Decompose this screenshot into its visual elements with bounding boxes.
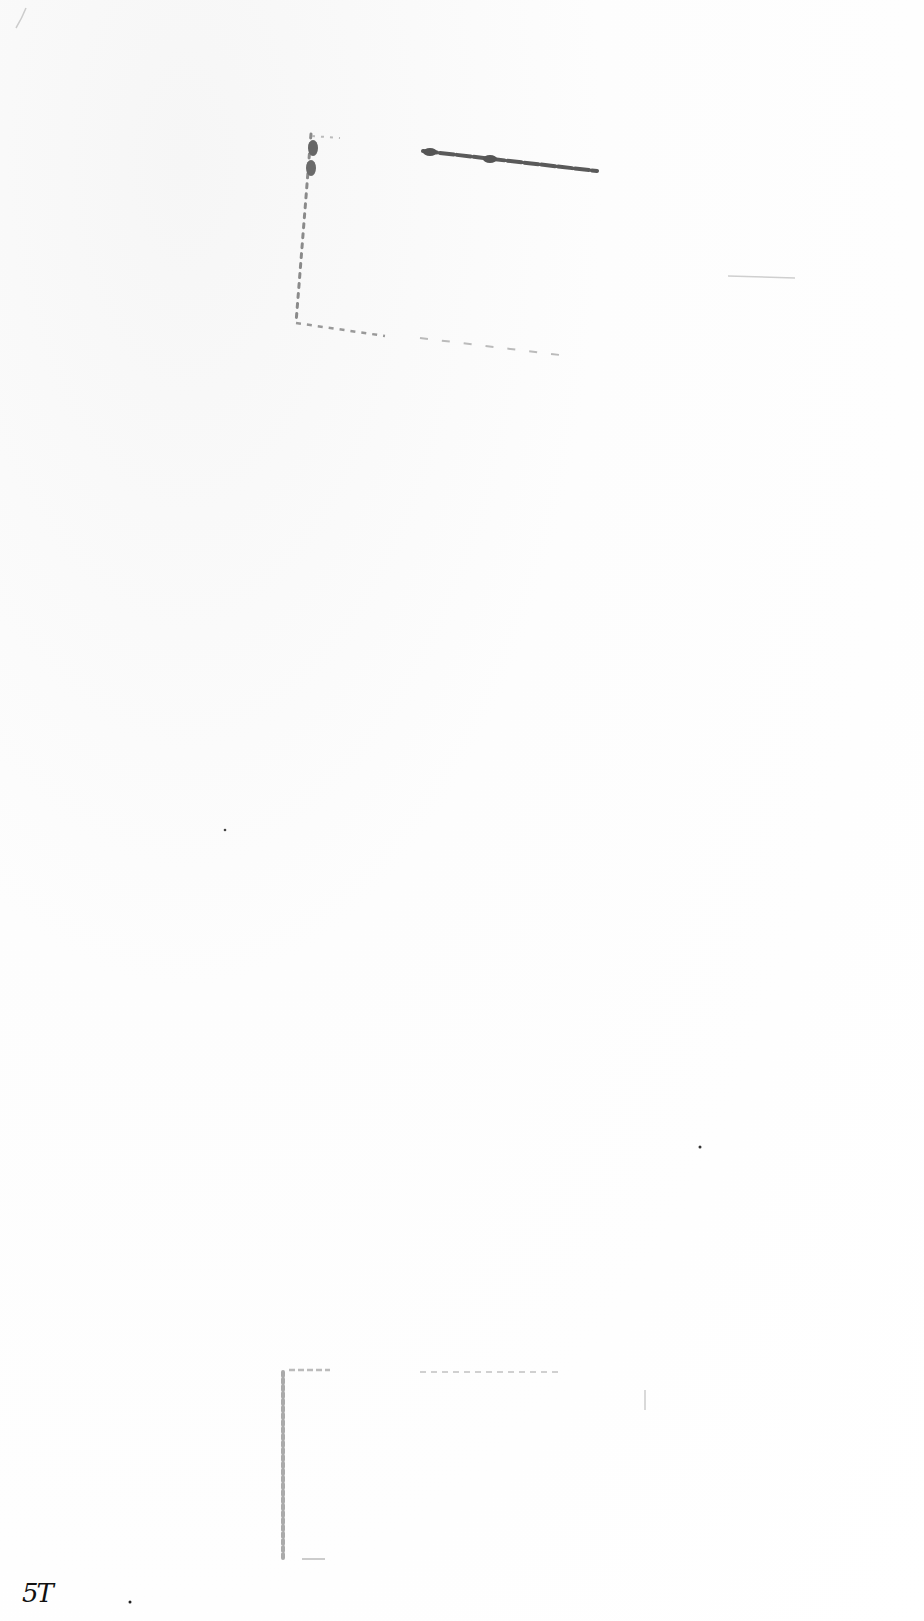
upper-dark-line: [423, 148, 597, 171]
upper-bracket: [296, 134, 560, 355]
faint-line: [728, 276, 795, 278]
scanned-page: 5T: [0, 0, 924, 1621]
dotted-bracket-marks: [0, 0, 924, 1621]
handwritten-mark: 5T: [22, 1578, 52, 1608]
lower-bracket: [283, 1370, 645, 1560]
